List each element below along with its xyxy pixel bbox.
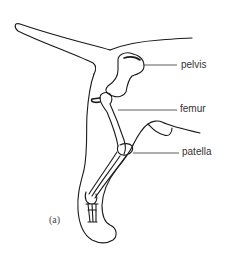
label-pelvis: pelvis [181, 60, 207, 70]
flank-fold [148, 124, 172, 135]
tibia-bone [92, 156, 120, 196]
femur-head [92, 98, 100, 102]
label-patella: patella [182, 147, 211, 157]
belly-outline [133, 121, 200, 145]
metatarsal-bones [88, 204, 97, 222]
back-outline [110, 38, 192, 50]
limb-drawing [0, 0, 229, 258]
label-femur: femur [180, 104, 206, 114]
femur-bone-back [100, 98, 118, 146]
tail-outline [15, 24, 110, 74]
diagram-canvas: pelvis femur patella (a) [0, 0, 229, 258]
pelvis-crest-shade [124, 57, 140, 60]
figure-label: (a) [49, 215, 60, 225]
